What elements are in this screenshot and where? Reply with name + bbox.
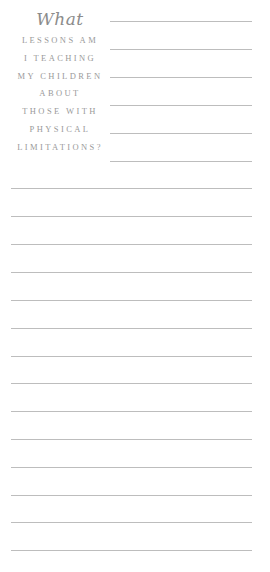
writing-line: [11, 522, 252, 523]
writing-line: [11, 550, 252, 551]
writing-line: [11, 272, 252, 273]
writing-line: [11, 188, 252, 189]
writing-line: [11, 439, 252, 440]
prompt-title: What LESSONS AM I TEACHING MY CHILDREN A…: [6, 8, 114, 157]
prompt-line: ABOUT: [6, 85, 114, 103]
writing-line: [11, 411, 252, 412]
prompt-line: PHYSICAL: [6, 121, 114, 139]
writing-line: [110, 49, 252, 50]
writing-line: [11, 244, 252, 245]
writing-line: [110, 133, 252, 134]
prompt-line: LIMITATIONS?: [6, 139, 114, 157]
writing-line: [11, 328, 252, 329]
writing-line: [110, 21, 252, 22]
writing-line: [11, 383, 252, 384]
prompt-line: LESSONS AM: [6, 32, 114, 50]
writing-line: [11, 216, 252, 217]
writing-line: [110, 105, 252, 106]
writing-line: [11, 300, 252, 301]
prompt-line: THOSE WITH: [6, 103, 114, 121]
writing-line: [110, 161, 252, 162]
prompt-line: I TEACHING: [6, 50, 114, 68]
prompt-line: MY CHILDREN: [6, 68, 114, 86]
writing-line: [11, 495, 252, 496]
prompt-script-word: What: [6, 8, 114, 32]
journal-page: What LESSONS AM I TEACHING MY CHILDREN A…: [0, 0, 270, 572]
writing-line: [11, 467, 252, 468]
writing-line: [11, 356, 252, 357]
writing-line: [110, 77, 252, 78]
